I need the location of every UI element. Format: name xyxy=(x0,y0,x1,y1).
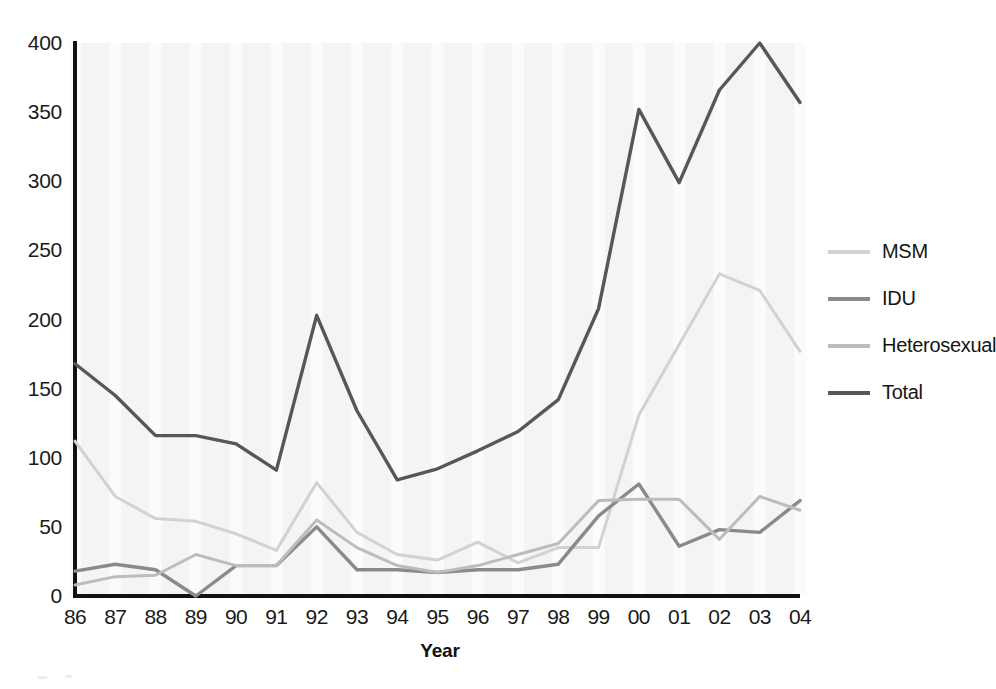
vertical-gridbands xyxy=(69,43,806,596)
legend-swatch-icon xyxy=(828,391,870,395)
legend-item[interactable]: MSM xyxy=(828,228,993,275)
legend-item[interactable]: Heterosexual xyxy=(828,322,993,369)
scan-artifact xyxy=(65,675,72,678)
legend-swatch-icon xyxy=(828,297,870,301)
x-axis-title: Year xyxy=(0,640,880,662)
scan-artifact xyxy=(38,676,47,679)
legend-item-label: MSM xyxy=(882,240,928,263)
legend-swatch-icon xyxy=(828,344,870,348)
legend-item-label: Heterosexual xyxy=(882,334,996,357)
legend-item-label: IDU xyxy=(882,287,916,310)
legend-item[interactable]: IDU xyxy=(828,275,993,322)
legend-item[interactable]: Total xyxy=(828,369,993,416)
chart-legend: MSMIDUHeterosexualTotal xyxy=(828,228,993,416)
legend-swatch-icon xyxy=(828,250,870,254)
legend-item-label: Total xyxy=(882,381,923,404)
